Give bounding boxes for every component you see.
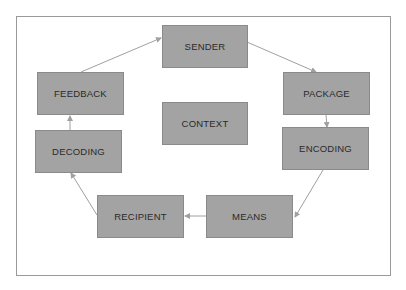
node-package: PACKAGE xyxy=(283,72,370,115)
node-label: CONTEXT xyxy=(182,118,229,129)
node-label: SENDER xyxy=(185,41,226,52)
node-sender: SENDER xyxy=(162,25,248,68)
node-encoding: ENCODING xyxy=(282,127,369,170)
node-label: FEEDBACK xyxy=(54,88,107,99)
node-label: RECIPIENT xyxy=(114,211,166,222)
node-label: MEANS xyxy=(232,211,267,222)
node-means: MEANS xyxy=(206,195,293,238)
node-feedback: FEEDBACK xyxy=(37,72,124,115)
node-label: ENCODING xyxy=(299,143,352,154)
node-label: DECODING xyxy=(52,146,105,157)
node-label: PACKAGE xyxy=(303,88,350,99)
node-recipient: RECIPIENT xyxy=(97,195,184,238)
node-decoding: DECODING xyxy=(35,130,122,173)
node-context: CONTEXT xyxy=(162,102,248,145)
